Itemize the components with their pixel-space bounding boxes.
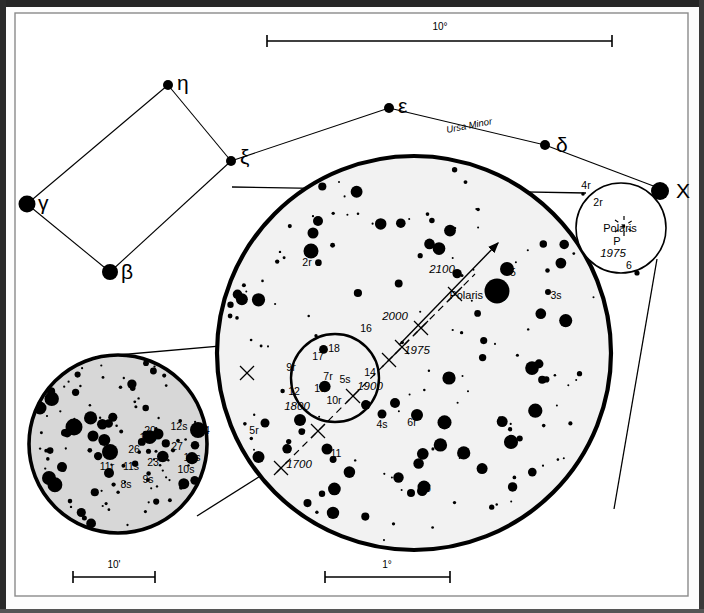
star-dot [581, 192, 585, 196]
star-dot [540, 240, 547, 247]
star-dot [250, 339, 253, 342]
star-dot [39, 447, 41, 449]
star-dot [168, 479, 170, 481]
star-dot [575, 379, 577, 381]
star-dot [66, 419, 83, 436]
inset-label: 4r [581, 179, 591, 191]
star-dot [504, 435, 518, 449]
star-dot [243, 422, 247, 426]
star-dot [429, 218, 435, 224]
star-dot [510, 501, 512, 503]
field-label: 14 [364, 366, 376, 378]
star-dot [46, 457, 50, 461]
star-dot [253, 449, 255, 451]
star-dot [634, 270, 639, 275]
star-dot [479, 354, 486, 361]
star-dot [190, 476, 199, 485]
field-label: 11 [331, 447, 342, 459]
star-dot [280, 389, 285, 394]
inset-label: Polaris [603, 222, 637, 234]
star-dot [77, 508, 86, 517]
star-dot [527, 249, 529, 251]
star-dot [283, 256, 286, 259]
star-dot [457, 402, 459, 404]
star-dot [91, 488, 99, 496]
star-dot [44, 467, 46, 469]
star-dot [252, 451, 264, 463]
star-dot [150, 487, 152, 489]
star-dot [84, 411, 97, 424]
asterism-star-dot [384, 103, 394, 113]
star-dot [344, 195, 346, 197]
star-dot [556, 258, 567, 269]
star-dot [119, 429, 123, 433]
field-label: 5r [249, 424, 259, 436]
star-dot [542, 424, 546, 428]
star-dot [372, 223, 374, 225]
field-label: 9r [286, 361, 296, 373]
magnified-label: 10s [178, 463, 195, 475]
star-dot [119, 386, 123, 390]
star-dot [398, 410, 400, 412]
field-label: 12 [288, 385, 300, 397]
star-dot [298, 428, 305, 435]
star-dot [148, 501, 150, 503]
star-dot [508, 482, 517, 491]
star-dot [426, 212, 430, 216]
star-dot [233, 290, 243, 300]
star-dot [383, 539, 385, 541]
magnified-label: 11s [123, 460, 139, 472]
scale-bar-label: 10° [432, 21, 447, 32]
field-label: 18 [328, 342, 340, 354]
field-label: 16 [360, 322, 372, 334]
field-label: 3s [550, 289, 561, 301]
star-dot [154, 450, 157, 453]
star-dot [423, 389, 426, 392]
star-dot [70, 506, 72, 508]
chart-canvas: 2r51sPolaris3s21002000197519001800170016… [0, 0, 704, 613]
star-dot [261, 419, 270, 428]
magnified-label: 8s [120, 478, 131, 490]
star-dot [515, 261, 517, 263]
star-dot [102, 444, 118, 460]
star-dot [351, 186, 363, 198]
star-dot [235, 316, 239, 320]
magnified-label: 16s [140, 431, 157, 443]
star-greek-label: X [676, 179, 690, 202]
field-label: Polaris [449, 289, 483, 301]
magnified-label: 9s [142, 473, 153, 485]
star-dot [72, 389, 79, 396]
star-dot [513, 476, 517, 480]
star-dot [419, 311, 421, 313]
star-dot [577, 371, 582, 376]
star-greek-label: δ [556, 133, 568, 156]
star-dot [391, 477, 393, 479]
star-dot [437, 415, 451, 429]
star-dot [474, 310, 481, 317]
star-dot [361, 513, 369, 521]
star-dot [88, 431, 99, 442]
star-dot [94, 452, 102, 460]
field-label: 1s [494, 291, 505, 303]
star-dot [528, 404, 542, 418]
field-label: 1700 [286, 458, 312, 470]
inset-label: P [613, 235, 620, 247]
star-dot [81, 367, 83, 369]
star-dot [168, 498, 172, 502]
magnified-label: 12s [171, 420, 188, 432]
star-dot [127, 379, 136, 388]
star-dot [545, 268, 550, 273]
star-dot [418, 253, 423, 258]
star-dot [63, 386, 65, 388]
star-dot [375, 218, 387, 230]
star-dot [105, 502, 108, 505]
field-label: 6 [425, 482, 431, 494]
inset-label: 6 [626, 259, 632, 271]
star-dot [442, 371, 455, 384]
star-dot [286, 439, 291, 444]
star-dot [407, 489, 415, 497]
star-dot [100, 364, 102, 366]
star-dot [275, 259, 279, 263]
magnified-label: 11r [100, 460, 115, 472]
star-chart-figure: 2r51sPolaris3s21002000197519001800170016… [0, 0, 704, 613]
